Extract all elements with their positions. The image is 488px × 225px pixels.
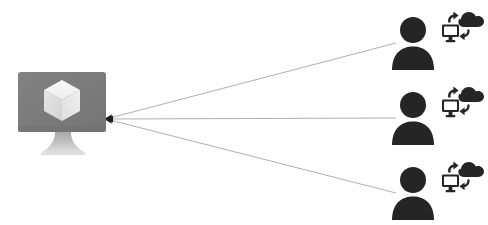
connection-line-1 [106,43,396,119]
cloud-sync-icon [442,11,484,42]
endpoint-user-1[interactable] [392,11,484,70]
diagram-svg [0,0,488,225]
diagram-canvas [0,0,488,225]
connection-line-2 [106,118,396,119]
connection-line-3 [106,119,396,193]
endpoint-user-3[interactable] [392,161,484,220]
cloud-sync-icon [442,161,484,192]
monitor-stand [40,132,86,153]
user-icon [392,92,434,145]
connection-lines [104,43,396,193]
user-icon [392,167,434,220]
user-icon [392,17,434,70]
monitor-screen-shade [18,126,106,132]
cloud-sync-icon [442,86,484,117]
endpoint-user-2[interactable] [392,86,484,145]
monitor-icon[interactable] [18,72,106,155]
